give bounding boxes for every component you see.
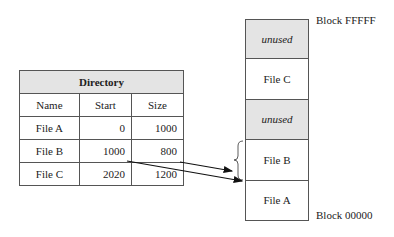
arrow-start-to-block (127, 161, 242, 181)
brace-file-b (234, 141, 243, 180)
arrow-size-to-brace (180, 162, 232, 171)
pointer-arrows (0, 0, 394, 237)
